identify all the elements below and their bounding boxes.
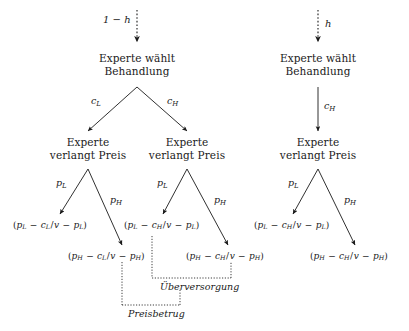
- node-price-left-line2: verlangt Preis: [38, 149, 138, 162]
- edge-label-cost-high-right: cH: [324, 100, 335, 112]
- payoff-ll: (pL − cL/v − pL): [13, 220, 87, 231]
- payoff-rl: (pL − cH/v − pL): [254, 220, 329, 231]
- node-price-left-line1: Experte: [38, 136, 138, 149]
- payoff-hl-mid-upper: (pL − cH/v − pL): [124, 220, 199, 231]
- edge-label-cost-high-left: cH: [167, 95, 178, 107]
- node-treatment-left-line1: Experte wählt: [87, 52, 187, 65]
- node-treatment-left-line2: Behandlung: [87, 65, 187, 78]
- node-price-right-line1: Experte: [268, 136, 368, 149]
- edge-price-high-2: [187, 169, 228, 245]
- node-treatment-right-line1: Experte wählt: [268, 52, 368, 65]
- edge-label-price-low-1: pL: [56, 177, 67, 189]
- edge-label-price-low-2: pL: [157, 177, 168, 189]
- payoff-hh: (pH − cH/v − pH): [186, 251, 264, 262]
- game-tree-figure: 1 − h h Experte wählt Behandlung Experte…: [0, 0, 409, 331]
- node-price-mid-line2: verlangt Preis: [137, 149, 237, 162]
- edge-label-price-high-2: pH: [214, 194, 226, 206]
- payoff-rh: (pH − cH/v − pH): [310, 251, 388, 262]
- node-price-mid: Experte verlangt Preis: [137, 136, 237, 162]
- node-price-right-line2: verlangt Preis: [268, 149, 368, 162]
- edge-cost-high-left: [137, 87, 187, 131]
- edge-price-high-3: [318, 169, 355, 245]
- edge-label-price-high-3: pH: [344, 194, 356, 206]
- edge-label-price-low-3: pL: [288, 177, 299, 189]
- annotation-overcharging: Preisbetrug: [128, 308, 185, 320]
- chance-label-left: 1 − h: [103, 14, 131, 26]
- node-treatment-right: Experte wählt Behandlung: [268, 52, 368, 78]
- node-treatment-right-line2: Behandlung: [268, 65, 368, 78]
- node-price-left: Experte verlangt Preis: [38, 136, 138, 162]
- node-treatment-left: Experte wählt Behandlung: [87, 52, 187, 78]
- chance-label-right: h: [325, 18, 331, 30]
- payoff-lh: (pH − cL/v − pH): [68, 251, 144, 262]
- edge-price-low-2: [163, 169, 187, 214]
- edge-label-cost-low: cL: [91, 95, 101, 107]
- annotation-overtreatment: Überversorgung: [160, 281, 239, 293]
- edge-price-low-3: [293, 169, 318, 214]
- node-price-right: Experte verlangt Preis: [268, 136, 368, 162]
- edge-label-price-high-1: pH: [110, 194, 122, 206]
- node-price-mid-line1: Experte: [137, 136, 237, 149]
- edge-price-high-1: [88, 169, 122, 245]
- edge-price-low-1: [60, 169, 88, 214]
- edge-cost-low-left: [88, 87, 137, 131]
